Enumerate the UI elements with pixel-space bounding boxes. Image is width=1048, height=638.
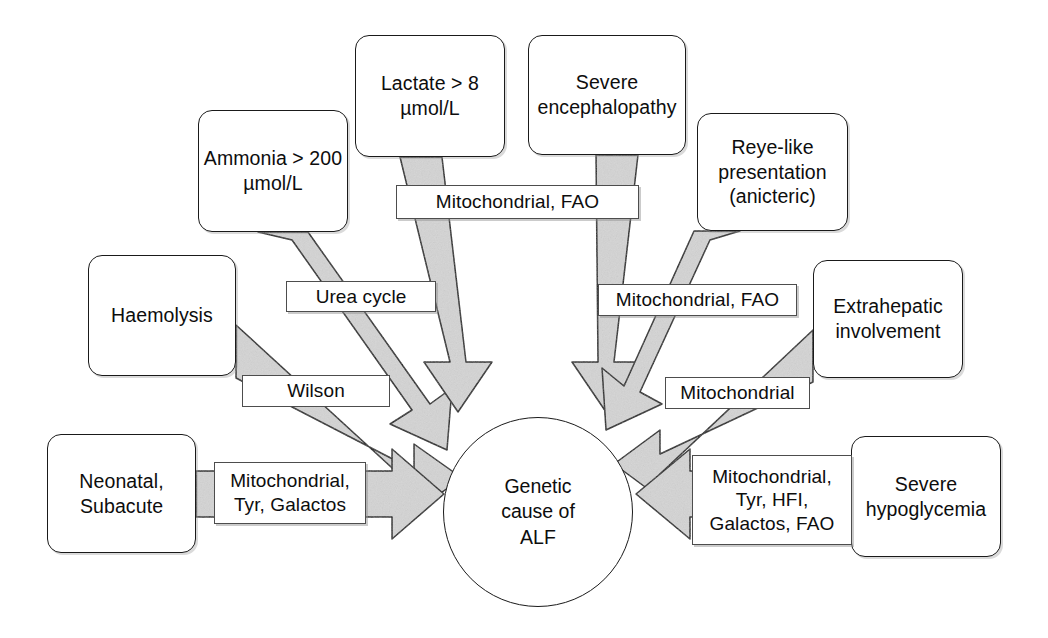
node-severe-encephalopathy-label: Severe encephalopathy: [537, 70, 676, 119]
node-ammonia-label: Ammonia > 200 µmol/L: [204, 146, 342, 195]
node-neonatal-subacute-label: Neonatal, Subacute: [79, 469, 163, 518]
edge-label-mitochondrial-fao-top-text: Mitochondrial, FAO: [436, 190, 599, 214]
arrow-ammonia-to-hub: [258, 232, 452, 450]
hub-genetic-cause-of-alf: Genetic cause of ALF: [443, 417, 633, 607]
node-haemolysis-label: Haemolysis: [111, 303, 213, 328]
edge-label-urea-cycle-text: Urea cycle: [316, 285, 407, 309]
node-neonatal-subacute[interactable]: Neonatal, Subacute: [47, 434, 196, 553]
edge-label-mitochondrial-fao-right[interactable]: Mitochondrial, FAO: [598, 284, 797, 316]
edge-label-mitochondrial-fao-right-text: Mitochondrial, FAO: [616, 288, 779, 312]
edge-label-mito-tyr-galactos[interactable]: Mitochondrial, Tyr, Galactos: [214, 462, 366, 524]
node-extrahepatic-involvement[interactable]: Extrahepatic involvement: [813, 260, 963, 378]
node-lactate-label: Lactate > 8 µmol/L: [381, 71, 479, 120]
hub-label: Genetic cause of ALF: [501, 474, 575, 550]
node-severe-encephalopathy[interactable]: Severe encephalopathy: [528, 35, 686, 155]
edge-label-mitochondrial-fao-top[interactable]: Mitochondrial, FAO: [396, 185, 639, 219]
edge-label-wilson-text: Wilson: [287, 379, 345, 403]
node-severe-hypoglycemia-label: Severe hypoglycemia: [866, 472, 986, 521]
node-severe-hypoglycemia[interactable]: Severe hypoglycemia: [851, 436, 1001, 557]
edge-label-mito-tyr-hfi-galactos-fao[interactable]: Mitochondrial, Tyr, HFI, Galactos, FAO: [692, 455, 852, 545]
edge-label-mitochondrial[interactable]: Mitochondrial: [665, 377, 810, 409]
edge-label-mitochondrial-text: Mitochondrial: [680, 381, 794, 405]
node-reye-like-presentation[interactable]: Reye-like presentation (anicteric): [697, 113, 848, 231]
edge-label-mito-tyr-galactos-text: Mitochondrial, Tyr, Galactos: [230, 469, 350, 516]
edge-label-wilson[interactable]: Wilson: [242, 375, 390, 407]
node-lactate[interactable]: Lactate > 8 µmol/L: [355, 35, 505, 157]
node-haemolysis[interactable]: Haemolysis: [88, 255, 236, 376]
node-reye-like-presentation-label: Reye-like presentation (anicteric): [718, 135, 827, 209]
node-extrahepatic-involvement-label: Extrahepatic involvement: [833, 294, 943, 343]
edge-label-urea-cycle[interactable]: Urea cycle: [286, 281, 436, 312]
edge-label-mito-tyr-hfi-galactos-fao-text: Mitochondrial, Tyr, HFI, Galactos, FAO: [710, 465, 835, 536]
node-ammonia[interactable]: Ammonia > 200 µmol/L: [198, 110, 348, 232]
diagram-canvas: Genetic cause of ALF Ammonia > 200 µmol/…: [0, 0, 1048, 638]
